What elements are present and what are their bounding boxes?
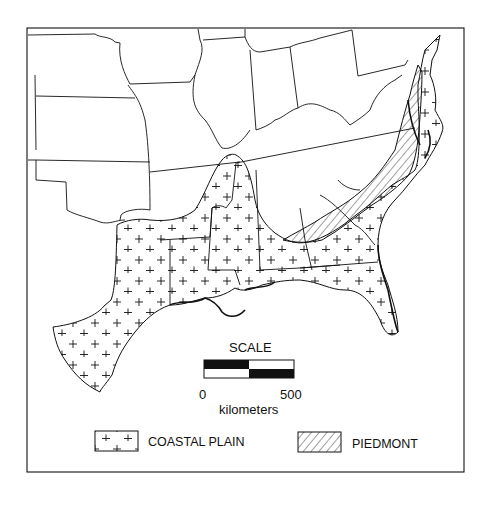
physiographic-map (0, 0, 489, 505)
scale-title: SCALE (229, 340, 272, 355)
coastal-plain-region (53, 35, 443, 392)
legend-swatch-coastal-plain (95, 431, 138, 451)
scale-bar (204, 360, 294, 378)
scale-start-label: 0 (199, 387, 206, 402)
legend-label-piedmont: PIEDMONT (352, 437, 418, 451)
legend-label-coastal-plain: COASTAL PLAIN (148, 435, 245, 449)
scale-end-label: 500 (280, 387, 302, 402)
piedmont-region (283, 65, 422, 242)
scale-unit-label: kilometers (219, 402, 278, 417)
legend-swatch-piedmont (298, 432, 341, 452)
